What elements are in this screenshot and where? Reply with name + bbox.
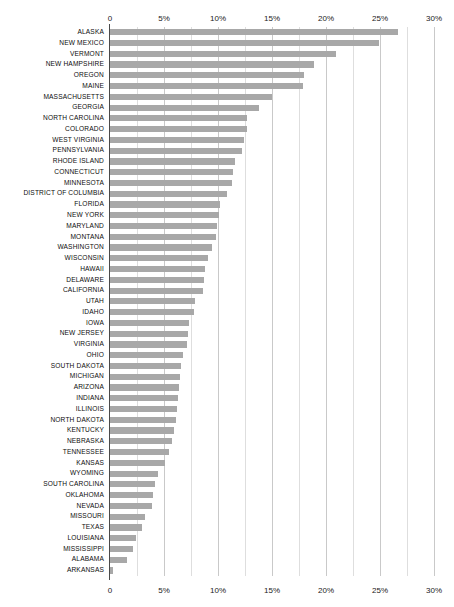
- y-axis-category-label: OREGON: [0, 70, 104, 81]
- x-axis-tick-label: 5%: [158, 586, 170, 596]
- y-axis-category-label: UTAH: [0, 296, 104, 307]
- bar: [110, 169, 233, 175]
- bar-row: [110, 199, 434, 210]
- x-axis-tick-label: 15%: [264, 586, 280, 596]
- bar: [110, 514, 145, 520]
- y-axis-category-label: OHIO: [0, 350, 104, 361]
- bar-row: [110, 167, 434, 178]
- bar: [110, 406, 177, 412]
- y-axis-category-label: ARIZONA: [0, 382, 104, 393]
- bar: [110, 417, 176, 423]
- bar: [110, 471, 158, 477]
- bar-row: [110, 544, 434, 555]
- bar-row: [110, 468, 434, 479]
- x-axis-tick-label: 0: [108, 14, 112, 24]
- x-axis-tick-label: 5%: [158, 14, 170, 24]
- bar-row: [110, 318, 434, 329]
- bar: [110, 298, 195, 304]
- y-axis-category-label: MONTANA: [0, 232, 104, 243]
- y-axis-category-label: ALABAMA: [0, 554, 104, 565]
- y-axis-category-label: IOWA: [0, 318, 104, 329]
- y-axis-category-label: NEBRASKA: [0, 436, 104, 447]
- plot-area: [110, 27, 434, 576]
- bar-rows: [110, 27, 434, 576]
- bar-row: [110, 275, 434, 286]
- y-axis-category-label: MARYLAND: [0, 221, 104, 232]
- bar: [110, 223, 217, 229]
- x-axis-tick-label: 10%: [210, 586, 226, 596]
- y-axis-category-label: WISCONSIN: [0, 253, 104, 264]
- bar: [110, 320, 189, 326]
- bar-row: [110, 371, 434, 382]
- bar: [110, 309, 194, 315]
- bar-row: [110, 253, 434, 264]
- bar-row: [110, 70, 434, 81]
- y-axis-category-label: NEW HAMPSHIRE: [0, 59, 104, 70]
- y-axis-category-label: VIRGINIA: [0, 339, 104, 350]
- bar: [110, 72, 304, 78]
- bar: [110, 191, 227, 197]
- y-axis-category-label: TEXAS: [0, 522, 104, 533]
- bar-row: [110, 490, 434, 501]
- y-axis-category-label: MICHIGAN: [0, 371, 104, 382]
- y-axis-category-label: MISSISSIPPI: [0, 544, 104, 555]
- bar: [110, 83, 303, 89]
- bar: [110, 201, 220, 207]
- bar-row: [110, 242, 434, 253]
- bar: [110, 126, 247, 132]
- bar-row: [110, 307, 434, 318]
- bar: [110, 384, 179, 390]
- bar: [110, 61, 314, 67]
- y-axis-category-label: OKLAHOMA: [0, 490, 104, 501]
- bar: [110, 363, 181, 369]
- horizontal-bar-chart: 05%10%15%20%25%30% ALASKANEW MEXICOVERMO…: [0, 0, 454, 607]
- y-axis-category-label: KANSAS: [0, 458, 104, 469]
- x-axis-tick-label: 30%: [426, 14, 442, 24]
- bar: [110, 137, 244, 143]
- y-axis-category-label: DISTRICT OF COLUMBIA: [0, 188, 104, 199]
- bar-row: [110, 554, 434, 565]
- bar-row: [110, 124, 434, 135]
- y-axis-category-label: ARKANSAS: [0, 565, 104, 576]
- bar-row: [110, 145, 434, 156]
- x-axis-labels-top: 05%10%15%20%25%30%: [0, 14, 454, 26]
- bar-row: [110, 232, 434, 243]
- x-axis-labels-bottom: 05%10%15%20%25%30%: [0, 586, 454, 598]
- bar-row: [110, 49, 434, 60]
- bar-row: [110, 522, 434, 533]
- bar-row: [110, 102, 434, 113]
- y-axis-category-label: MASSACHUSETTS: [0, 92, 104, 103]
- y-axis-category-label: CONNECTICUT: [0, 167, 104, 178]
- bar-row: [110, 188, 434, 199]
- y-axis-category-label: FLORIDA: [0, 199, 104, 210]
- bar-row: [110, 533, 434, 544]
- bar: [110, 546, 133, 552]
- bar: [110, 427, 174, 433]
- y-axis-category-label: KENTUCKY: [0, 425, 104, 436]
- bar-row: [110, 361, 434, 372]
- bar: [110, 277, 204, 283]
- y-axis-category-label: MISSOURI: [0, 511, 104, 522]
- bar: [110, 374, 180, 380]
- bar: [110, 266, 205, 272]
- y-axis-category-label: CALIFORNIA: [0, 285, 104, 296]
- bar: [110, 94, 272, 100]
- bar-row: [110, 565, 434, 576]
- bar: [110, 395, 178, 401]
- bar-row: [110, 59, 434, 70]
- x-axis-tick-label: 20%: [318, 14, 334, 24]
- bar: [110, 535, 136, 541]
- bar-row: [110, 458, 434, 469]
- bar: [110, 524, 142, 530]
- y-axis-category-label: RHODE ISLAND: [0, 156, 104, 167]
- x-axis-tick-label: 25%: [372, 586, 388, 596]
- bar: [110, 148, 242, 154]
- bar: [110, 115, 247, 121]
- bar-row: [110, 81, 434, 92]
- y-axis-category-label: INDIANA: [0, 393, 104, 404]
- bar: [110, 481, 155, 487]
- y-axis-category-labels: ALASKANEW MEXICOVERMONTNEW HAMPSHIREOREG…: [0, 27, 104, 576]
- bar: [110, 503, 152, 509]
- bar: [110, 180, 232, 186]
- y-axis-category-label: GEORGIA: [0, 102, 104, 113]
